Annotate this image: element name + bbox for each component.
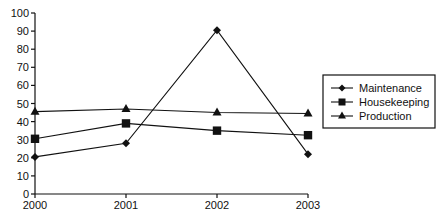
legend-label: Production — [359, 110, 412, 122]
y-tick-label: 70 — [17, 61, 29, 73]
data-point-housekeeping — [213, 126, 221, 134]
legend: MaintenanceHousekeepingProduction — [323, 75, 435, 128]
y-tick-label: 50 — [17, 98, 29, 110]
series-production — [31, 104, 313, 117]
legend-label: Maintenance — [359, 82, 422, 94]
y-tick-label: 20 — [17, 152, 29, 164]
x-tick-label: 2002 — [205, 199, 229, 211]
data-point-maintenance — [31, 153, 39, 161]
y-tick-label: 40 — [17, 116, 29, 128]
x-tick-label: 2003 — [296, 199, 320, 211]
data-point-housekeeping — [122, 119, 130, 127]
data-point-maintenance — [304, 150, 312, 158]
x-tick-label: 2000 — [23, 199, 47, 211]
series-line-maintenance — [35, 30, 308, 157]
y-tick-label: 80 — [17, 43, 29, 55]
data-point-production — [213, 108, 222, 116]
data-point-housekeeping — [31, 135, 39, 143]
line-chart: 0102030405060708090100 2000200120022003 … — [0, 0, 443, 216]
y-tick-label: 10 — [17, 170, 29, 182]
series-line-housekeeping — [35, 123, 308, 138]
x-axis: 2000200120022003 — [23, 194, 320, 211]
data-point-housekeeping — [304, 131, 312, 139]
legend-label: Housekeeping — [359, 96, 429, 108]
y-tick-label: 60 — [17, 79, 29, 91]
data-point-production — [31, 107, 40, 115]
series-group — [31, 26, 313, 161]
series-line-production — [35, 109, 308, 114]
y-tick-label: 90 — [17, 25, 29, 37]
y-axis: 0102030405060708090100 — [11, 7, 35, 200]
y-tick-label: 30 — [17, 134, 29, 146]
y-tick-label: 100 — [11, 7, 29, 19]
series-maintenance — [31, 26, 312, 161]
x-tick-label: 2001 — [114, 199, 138, 211]
data-point-production — [304, 108, 313, 116]
series-housekeeping — [31, 119, 312, 143]
legend-marker-housekeeping — [339, 99, 346, 106]
data-point-production — [122, 104, 131, 112]
